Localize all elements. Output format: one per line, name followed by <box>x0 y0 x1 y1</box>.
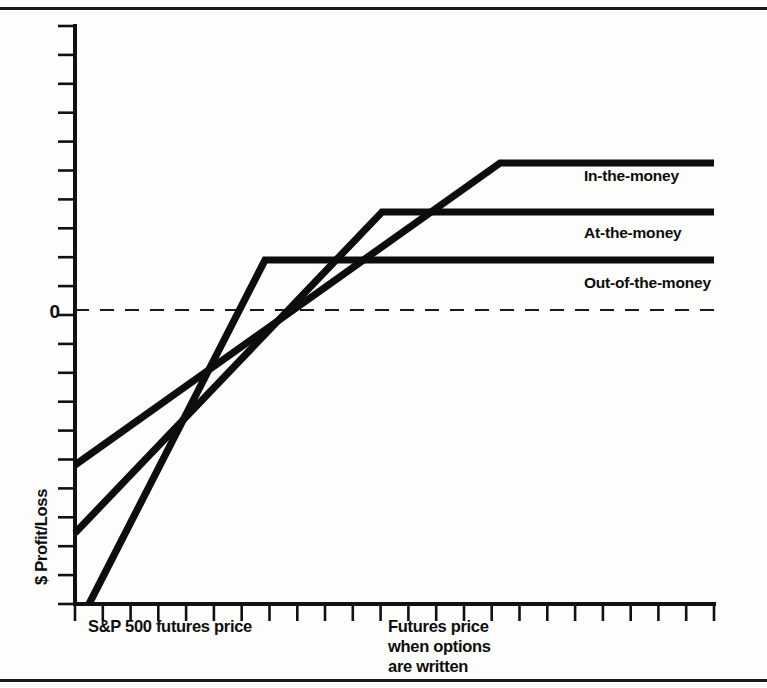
series-label-at-the-money: At-the-money <box>584 224 682 241</box>
figure-canvas: In-the-money At-the-money Out-of-the-mon… <box>0 0 767 688</box>
x-axis-caption-right-line-3: are written <box>388 657 468 675</box>
x-axis-caption-left: S&P 500 futures price <box>88 617 252 635</box>
x-axis-caption-right-line-2: when options <box>387 637 491 655</box>
zero-axis-label: 0 <box>49 301 60 322</box>
payoff-line-out-of-the-money <box>89 260 714 604</box>
y-axis-title: $ Profit/Loss <box>32 489 50 585</box>
axis-group <box>58 26 714 621</box>
series-label-out-of-the-money: Out-of-the-money <box>584 274 711 291</box>
y-axis-ticks <box>58 26 74 604</box>
payoff-line-in-the-money <box>75 163 714 465</box>
series-label-in-the-money: In-the-money <box>584 167 679 184</box>
payoff-chart: In-the-money At-the-money Out-of-the-mon… <box>0 0 767 688</box>
x-axis-caption-right-line-1: Futures price <box>388 617 489 635</box>
